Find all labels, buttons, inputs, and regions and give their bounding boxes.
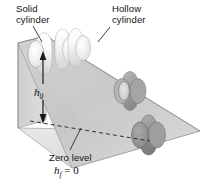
solid-cylinder-top-cap <box>28 41 44 68</box>
label-zero-level: Zero level <box>49 152 92 163</box>
height-subscript: 0 <box>40 92 44 101</box>
leader-line-hollow-cylinder <box>98 27 110 42</box>
label-hollow-cylinder-line1: Hollow <box>112 3 146 14</box>
cylinder-top-rear-cap <box>76 36 91 61</box>
label-zero-level-text: Zero level <box>49 152 92 163</box>
label-solid-cylinder-line2: cylinder <box>16 14 50 25</box>
solid-cylinder-bottom-near-cap <box>132 122 149 148</box>
label-final-height-equation: hf = 0 <box>54 164 79 179</box>
hollow-cylinder-mid-bore <box>119 81 130 100</box>
inclined-plane-figure <box>0 0 220 183</box>
label-initial-height: h0 <box>34 86 43 101</box>
label-hollow-cylinder: Hollow cylinder <box>112 3 146 25</box>
final-height-equals-zero: = 0 <box>62 164 79 176</box>
solid-cylinder-bottom-far-cap <box>149 122 166 148</box>
label-solid-cylinder: Solid cylinder <box>16 3 50 25</box>
hollow-cylinder-mid-far-cap <box>130 79 146 104</box>
label-solid-cylinder-line1: Solid <box>16 3 50 14</box>
label-hollow-cylinder-line2: cylinder <box>112 14 146 25</box>
